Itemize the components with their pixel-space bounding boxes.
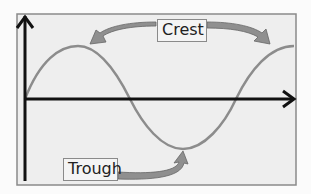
crest-label: Crest (157, 19, 207, 42)
trough-label: Trough (63, 158, 118, 181)
wave-diagram (0, 0, 311, 194)
